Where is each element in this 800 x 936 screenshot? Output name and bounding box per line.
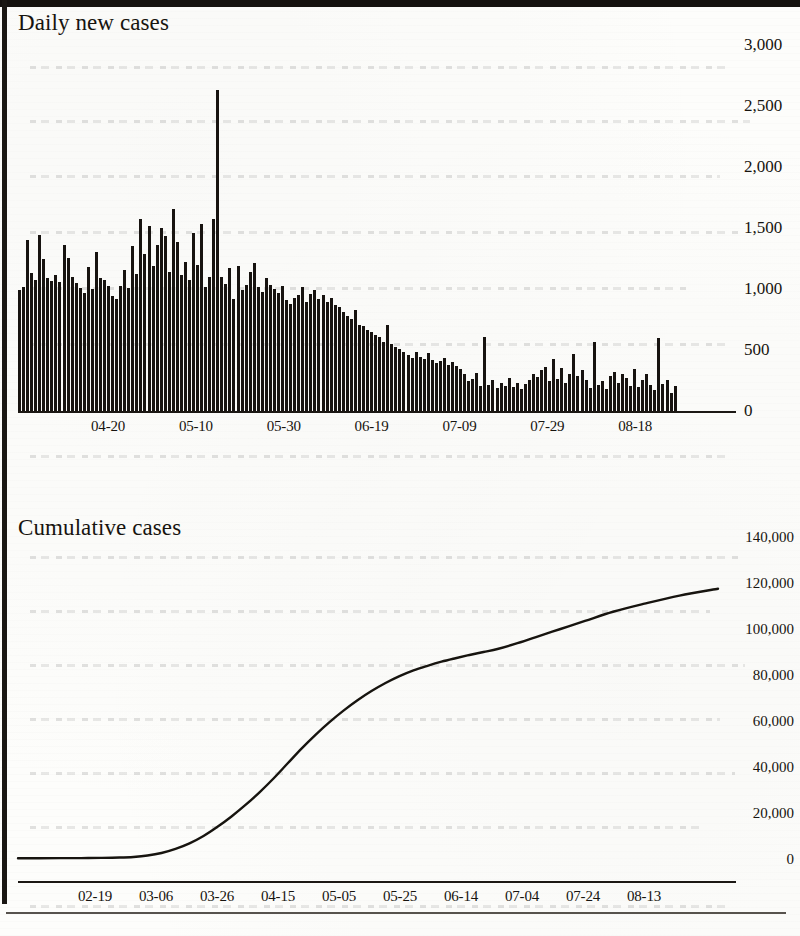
bar bbox=[123, 270, 126, 411]
bar bbox=[435, 363, 438, 411]
bar bbox=[641, 380, 644, 411]
cumulative-y-tick-label: 80,000 bbox=[736, 667, 794, 684]
bar bbox=[330, 298, 333, 411]
bar bbox=[621, 374, 624, 411]
bar bbox=[540, 370, 543, 411]
bar bbox=[38, 235, 41, 411]
cumulative-cases-chart: Cumulative cases 140,000120,000100,00080… bbox=[0, 470, 800, 920]
bar bbox=[293, 298, 296, 411]
bar bbox=[75, 283, 78, 411]
bar bbox=[443, 358, 446, 411]
cumulative-y-tick-label: 0 bbox=[736, 851, 794, 868]
bar bbox=[366, 330, 369, 411]
bar bbox=[512, 387, 515, 411]
bar bbox=[483, 337, 486, 411]
bar bbox=[309, 294, 312, 411]
bar bbox=[200, 224, 203, 411]
bar bbox=[666, 380, 669, 411]
cumulative-y-tick-label: 60,000 bbox=[736, 713, 794, 730]
bar bbox=[637, 387, 640, 411]
bar bbox=[528, 380, 531, 411]
bar bbox=[313, 290, 316, 411]
bar bbox=[289, 304, 292, 411]
bar bbox=[261, 292, 264, 411]
bar bbox=[589, 388, 592, 411]
bar bbox=[249, 272, 252, 411]
bar bbox=[103, 280, 106, 411]
bar bbox=[127, 288, 130, 411]
cumulative-x-tick-label: 04-15 bbox=[261, 888, 295, 905]
daily-chart-title: Daily new cases bbox=[18, 10, 169, 36]
cumulative-y-tick-label: 100,000 bbox=[736, 621, 794, 638]
bar bbox=[439, 361, 442, 411]
bar bbox=[568, 374, 571, 411]
bar bbox=[617, 383, 620, 411]
bar bbox=[196, 265, 199, 411]
bar bbox=[354, 310, 357, 411]
cumulative-x-tick-label: 07-04 bbox=[505, 888, 539, 905]
bar bbox=[423, 359, 426, 411]
bar bbox=[585, 380, 588, 411]
bar bbox=[411, 358, 414, 411]
bar bbox=[228, 268, 231, 411]
bar bbox=[378, 337, 381, 411]
bar bbox=[508, 378, 511, 411]
bar bbox=[317, 299, 320, 411]
bar bbox=[427, 353, 430, 411]
bar bbox=[220, 277, 223, 411]
bar bbox=[649, 385, 652, 411]
bar bbox=[552, 359, 555, 411]
bar bbox=[208, 277, 211, 411]
daily-bars bbox=[18, 41, 734, 411]
bar bbox=[576, 376, 579, 411]
bar bbox=[107, 286, 110, 411]
bar bbox=[601, 381, 604, 411]
cumulative-y-tick-label: 20,000 bbox=[736, 805, 794, 822]
bar bbox=[653, 390, 656, 411]
bar bbox=[593, 342, 596, 411]
bar bbox=[184, 262, 187, 411]
bar bbox=[475, 373, 478, 411]
bar bbox=[152, 266, 155, 411]
bar bbox=[71, 277, 74, 411]
bar bbox=[625, 378, 628, 411]
bar bbox=[390, 344, 393, 411]
bar bbox=[431, 360, 434, 411]
bar bbox=[419, 357, 422, 411]
bar bbox=[54, 275, 57, 411]
bar bbox=[532, 374, 535, 411]
bar bbox=[394, 347, 397, 411]
bar bbox=[613, 372, 616, 411]
bar bbox=[273, 289, 276, 411]
bar bbox=[119, 286, 122, 411]
bar bbox=[326, 302, 329, 411]
bar bbox=[564, 383, 567, 411]
bar bbox=[350, 319, 353, 411]
bar bbox=[633, 369, 636, 411]
cumulative-x-tick-label: 03-26 bbox=[200, 888, 234, 905]
bar bbox=[322, 295, 325, 411]
bar bbox=[111, 296, 114, 411]
bar bbox=[164, 236, 167, 411]
bar bbox=[362, 326, 365, 411]
bar bbox=[500, 383, 503, 411]
bar bbox=[487, 385, 490, 411]
bar bbox=[629, 386, 632, 411]
cumulative-y-tick-label: 40,000 bbox=[736, 759, 794, 776]
bar bbox=[160, 228, 163, 411]
bar bbox=[212, 219, 215, 411]
bar bbox=[548, 381, 551, 411]
bar bbox=[504, 386, 507, 411]
cumulative-x-tick-label: 07-24 bbox=[566, 888, 600, 905]
daily-axis-baseline bbox=[18, 411, 736, 413]
bar bbox=[42, 259, 45, 411]
bar bbox=[297, 295, 300, 411]
bar bbox=[657, 338, 660, 411]
bar bbox=[79, 288, 82, 411]
bar bbox=[67, 258, 70, 411]
cumulative-x-tick-label: 03-06 bbox=[139, 888, 173, 905]
bar bbox=[382, 342, 385, 411]
bar bbox=[148, 226, 151, 411]
bar bbox=[479, 386, 482, 411]
daily-x-tick-label: 08-18 bbox=[618, 418, 652, 435]
